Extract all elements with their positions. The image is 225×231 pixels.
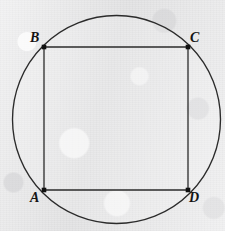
vertex-label-c: C <box>190 31 199 45</box>
vertex-label-b: B <box>30 31 39 45</box>
vertex-label-a: A <box>30 191 39 205</box>
vertex-marker-b <box>42 45 47 50</box>
geometry-figure: B C A D <box>0 0 225 231</box>
vertex-marker-c <box>186 45 191 50</box>
vertex-marker-a <box>42 188 47 193</box>
vertex-label-d: D <box>189 191 199 205</box>
